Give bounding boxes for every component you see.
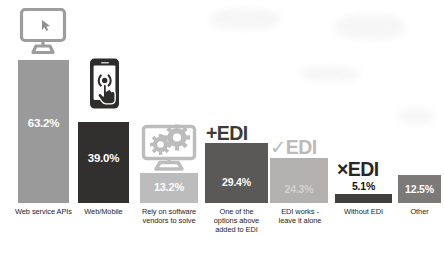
bar-label-line: vendors to solve [131,216,207,225]
bar-chart: 63.2% Web service APIs 39.0% [0,0,444,260]
bar-value-web-service-apis: 63.2% [18,117,69,129]
scan-artifact [335,14,405,40]
bar-group-web-mobile: 39.0% [78,122,129,203]
bar-label-line: added to EDI [200,225,273,234]
bar-label-line: EDI works - [265,207,335,216]
bar-label-web-mobile: Web/Mobile [68,207,139,216]
bar-web-mobile[interactable]: 39.0% [78,122,129,203]
bar-label-line: Web/Mobile [68,207,139,216]
bar-value-edi-works-leave-it-alone: 24.3% [270,183,328,195]
bar-label-without-edi: Without EDI [330,207,397,216]
bar-label-rely-on-software-vendors: Rely on software vendors to solve [131,207,207,225]
bar-label-line: options above [200,216,273,225]
bar-edi-works-leave-it-alone[interactable]: 24.3% [270,158,328,203]
bar-value-without-edi: 5.1% [335,180,392,192]
bar-label-line: leave it alone [265,216,335,225]
bar-value-other: 12.5% [398,183,441,195]
bar-label-line: Without EDI [330,207,397,216]
bar-group-edi-works-leave-it-alone: 24.3% [270,158,328,203]
bar-without-edi[interactable] [335,194,392,203]
bar-group-rely-on-software-vendors: 13.2% [140,173,198,203]
monitor-gears-icon [140,124,198,171]
scan-artifact [210,8,280,30]
bar-label-line: Rely on software [131,207,207,216]
bar-label-other: Other [396,207,443,216]
bar-group-other: 12.5% [398,175,441,203]
bar-one-of-the-options-above[interactable]: 29.4% [205,143,268,203]
bar-other[interactable]: 12.5% [398,175,441,203]
bar-value-rely-on-software-vendors: 13.2% [140,181,198,193]
bar-label-line: Other [396,207,443,216]
bar-label-edi-works-leave-it-alone: EDI works - leave it alone [265,207,335,225]
bar-label-line: One of the [200,207,273,216]
scan-artifact [300,66,360,82]
bar-group-without-edi [335,194,392,203]
bar-label-one-of-the-options-above: One of the options above added to EDI [200,207,273,235]
smartphone-tap-icon [86,58,126,116]
bar-group-web-service-apis: 63.2% [18,60,69,203]
header-plus-edi: +EDI [206,122,248,145]
bar-value-web-mobile: 39.0% [78,152,129,164]
header-cross-edi: ×EDI [337,158,379,181]
monitor-cursor-icon [17,6,69,56]
header-check-edi: ✓EDI [270,136,316,159]
bar-group-one-of-the-options-above: 29.4% [205,143,268,203]
bar-web-service-apis[interactable]: 63.2% [18,60,69,203]
bar-rely-on-software-vendors[interactable]: 13.2% [140,173,198,203]
scan-artifact [398,108,434,124]
bar-value-one-of-the-options-above: 29.4% [205,176,268,188]
